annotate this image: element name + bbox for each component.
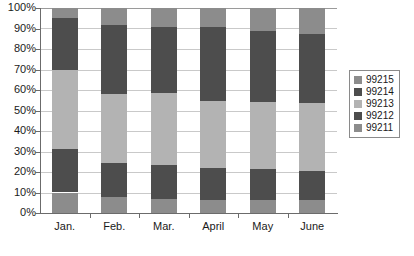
plot-area xyxy=(40,8,337,213)
stacked-bar-chart: 100%90%80%70%60%50%40%30%20%10%0% Jan.Fe… xyxy=(0,0,414,256)
bar-segment-99213[interactable] xyxy=(52,70,78,150)
bar-segment-99214[interactable] xyxy=(151,27,177,93)
gridline xyxy=(40,193,337,194)
y-axis-tick-mark xyxy=(35,193,40,194)
bar-segment-99211[interactable] xyxy=(299,200,325,213)
legend-label: 99211 xyxy=(366,123,393,133)
bar-segment-99214[interactable] xyxy=(200,27,226,101)
legend-item-99213[interactable]: 99213 xyxy=(354,98,394,110)
x-axis-category-label: April xyxy=(189,220,239,233)
bar-group[interactable] xyxy=(299,8,325,213)
bar-group[interactable] xyxy=(101,8,127,213)
bar-segment-99215[interactable] xyxy=(250,8,276,31)
x-axis-category-label: Feb. xyxy=(90,220,140,233)
bar-segment-99211[interactable] xyxy=(250,200,276,213)
gridline xyxy=(40,90,337,91)
stacked-bar[interactable] xyxy=(200,8,226,213)
gridline xyxy=(40,49,337,50)
bar-segment-99215[interactable] xyxy=(52,8,78,18)
bar-segment-99215[interactable] xyxy=(200,8,226,27)
gridline xyxy=(40,131,337,132)
bar-segment-99211[interactable] xyxy=(101,197,127,213)
y-axis-tick-label: 30% xyxy=(2,146,36,157)
bar-group[interactable] xyxy=(151,8,177,213)
stacked-bar[interactable] xyxy=(299,8,325,213)
y-axis-tick-mark xyxy=(35,90,40,91)
bar-group[interactable] xyxy=(52,8,78,213)
y-axis-tick-label: 0% xyxy=(2,207,36,218)
legend-swatch-icon xyxy=(354,100,362,108)
legend-label: 99214 xyxy=(366,87,394,97)
y-axis-tick-mark xyxy=(35,152,40,153)
bar-segment-99212[interactable] xyxy=(52,149,78,192)
y-axis-tick-label: 50% xyxy=(2,105,36,116)
bar-segment-99214[interactable] xyxy=(299,34,325,104)
y-axis-tick-mark xyxy=(35,172,40,173)
y-axis-tick-mark xyxy=(35,70,40,71)
y-axis-tick-label: 40% xyxy=(2,125,36,136)
y-axis-tick-mark xyxy=(35,49,40,50)
x-axis-category-label: June xyxy=(288,220,338,233)
gridline xyxy=(40,111,337,112)
y-axis-tick-mark xyxy=(35,111,40,112)
stacked-bar[interactable] xyxy=(250,8,276,213)
bar-segment-99213[interactable] xyxy=(101,94,127,163)
bar-group[interactable] xyxy=(200,8,226,213)
y-axis-tick-label: 70% xyxy=(2,64,36,75)
legend-swatch-icon xyxy=(354,112,362,120)
bar-segment-99211[interactable] xyxy=(151,199,177,213)
y-axis-tick-label: 80% xyxy=(2,43,36,54)
y-axis-tick-label: 20% xyxy=(2,166,36,177)
bar-segment-99213[interactable] xyxy=(299,103,325,171)
bar-segment-99213[interactable] xyxy=(250,102,276,169)
bar-segment-99214[interactable] xyxy=(52,18,78,69)
y-axis-tick-mark xyxy=(35,8,40,9)
bar-segment-99213[interactable] xyxy=(151,93,177,165)
legend-item-99212[interactable]: 99212 xyxy=(354,110,394,122)
bar-segment-99215[interactable] xyxy=(299,8,325,34)
stacked-bar[interactable] xyxy=(52,8,78,213)
bar-segment-99212[interactable] xyxy=(250,169,276,200)
legend-swatch-icon xyxy=(354,88,362,96)
x-axis-category-label: May xyxy=(238,220,288,233)
bar-segment-99215[interactable] xyxy=(101,8,127,25)
legend: 9921599214992139921299211 xyxy=(349,70,400,138)
legend-item-99211[interactable]: 99211 xyxy=(354,122,394,134)
legend-label: 99212 xyxy=(366,111,394,121)
x-axis-tick-mark xyxy=(238,214,239,218)
bar-segment-99214[interactable] xyxy=(101,25,127,94)
bar-segment-99211[interactable] xyxy=(200,200,226,213)
bar-segment-99213[interactable] xyxy=(200,101,226,168)
x-axis-tick-mark xyxy=(189,214,190,218)
legend-item-99215[interactable]: 99215 xyxy=(354,74,394,86)
y-axis-tick-label: 90% xyxy=(2,23,36,34)
x-axis-category-label: Mar. xyxy=(139,220,189,233)
bar-group[interactable] xyxy=(250,8,276,213)
bar-segment-99212[interactable] xyxy=(299,171,325,200)
legend-swatch-icon xyxy=(354,124,362,132)
y-axis-tick-mark xyxy=(35,131,40,132)
gridline xyxy=(40,70,337,71)
y-axis-tick-mark xyxy=(35,29,40,30)
y-axis-tick-label: 60% xyxy=(2,84,36,95)
stacked-bar[interactable] xyxy=(151,8,177,213)
x-axis-tick-mark xyxy=(288,214,289,218)
legend-item-99214[interactable]: 99214 xyxy=(354,86,394,98)
x-axis-labels: Jan.Feb.Mar.AprilMayJune xyxy=(40,220,337,238)
bar-segment-99215[interactable] xyxy=(151,8,177,27)
gridline xyxy=(40,28,337,29)
x-axis-tick-mark xyxy=(90,214,91,218)
y-axis-labels: 100%90%80%70%60%50%40%30%20%10%0% xyxy=(0,0,36,256)
bar-segment-99212[interactable] xyxy=(101,163,127,197)
stacked-bar[interactable] xyxy=(101,8,127,213)
gridline xyxy=(40,8,337,9)
legend-label: 99213 xyxy=(366,99,394,109)
bar-segment-99212[interactable] xyxy=(151,165,177,199)
gridline xyxy=(40,152,337,153)
x-axis-category-label: Jan. xyxy=(40,220,90,233)
bar-segment-99212[interactable] xyxy=(200,168,226,200)
bar-segment-99214[interactable] xyxy=(250,31,276,103)
legend-swatch-icon xyxy=(354,76,362,84)
bar-segment-99211[interactable] xyxy=(52,193,78,214)
y-axis-tick-mark xyxy=(35,213,40,214)
